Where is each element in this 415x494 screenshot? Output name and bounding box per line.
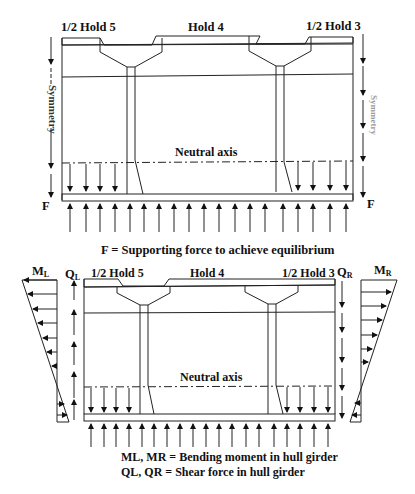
legend-bending-moment: ML, MR = Bending moment in hull girder bbox=[121, 450, 338, 465]
label-neutral-axis-bottom: Neutral axis bbox=[180, 370, 242, 385]
label-hold-4: Hold 4 bbox=[188, 20, 224, 35]
top-hull-section bbox=[62, 36, 353, 201]
label-moment-left: ML bbox=[32, 264, 49, 279]
bending-moment-right bbox=[350, 280, 397, 422]
label-symmetry-right: Symmetry bbox=[369, 95, 379, 135]
shear-left-subscript: L bbox=[75, 273, 80, 282]
caption-supporting-force: F = Supporting force to achieve equilibr… bbox=[101, 243, 335, 258]
label-force-right: F bbox=[367, 197, 375, 212]
neutral-axis-line-bottom bbox=[84, 386, 335, 387]
label-symmetry-left: Symmetry bbox=[47, 85, 59, 134]
label-shear-left: QL bbox=[65, 267, 80, 282]
shear-right-subscript: R bbox=[347, 271, 353, 280]
label-moment-right: MR bbox=[374, 263, 392, 278]
label-half-hold-5: 1/2 Hold 5 bbox=[61, 20, 116, 35]
shear-right-symbol: Q bbox=[337, 265, 347, 279]
label-neutral-axis-top: Neutral axis bbox=[175, 145, 237, 160]
shear-left-symbol: Q bbox=[65, 267, 75, 281]
legend-shear-force: QL, QR = Shear force in hull girder bbox=[121, 465, 305, 480]
bending-moment-left bbox=[22, 280, 69, 422]
bottom-hull-section bbox=[84, 279, 335, 421]
moment-right-subscript: R bbox=[386, 269, 392, 278]
moment-left-subscript: L bbox=[44, 270, 49, 279]
label-half-hold-3: 1/2 Hold 3 bbox=[306, 19, 361, 34]
label-half-hold-3-bottom: 1/2 Hold 3 bbox=[282, 266, 335, 281]
moment-left-symbol: M bbox=[32, 264, 44, 278]
label-force-left: F bbox=[42, 199, 50, 214]
label-half-hold-5-bottom: 1/2 Hold 5 bbox=[91, 266, 144, 281]
moment-right-symbol: M bbox=[374, 263, 386, 277]
neutral-axis-line bbox=[62, 161, 353, 163]
label-shear-right: QR bbox=[337, 265, 353, 280]
label-hold-4-bottom: Hold 4 bbox=[190, 266, 224, 281]
